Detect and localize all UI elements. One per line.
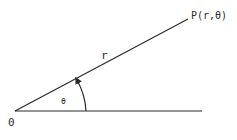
angle-label: θ: [61, 97, 66, 106]
polar-coordinates-diagram: 0 r θ P(r,θ): [0, 0, 237, 140]
angle-arc: [77, 80, 86, 111]
origin-label: 0: [8, 116, 15, 129]
point-label: P(r,θ): [191, 10, 227, 21]
radius-label: r: [101, 49, 108, 62]
radius-ray: [15, 19, 188, 111]
